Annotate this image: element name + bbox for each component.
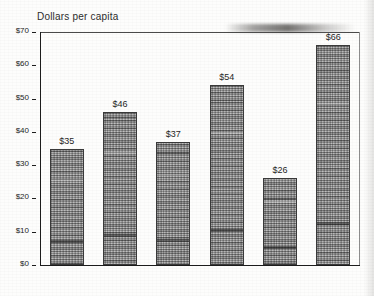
y-axis-line (40, 32, 41, 266)
bar (156, 142, 190, 265)
bar (210, 85, 244, 265)
y-axis-tick-label: $20 (16, 192, 29, 201)
y-axis-tick-mark (32, 32, 36, 33)
scanned-chart-page: Dollars per capita $0$10$20$30$40$50$60$… (0, 0, 374, 296)
y-axis-tick-mark (32, 198, 36, 199)
y-axis-tick-label: $60 (16, 59, 29, 68)
bar-group: $46Coos (103, 32, 137, 265)
bar (50, 149, 84, 266)
bar-value-label: $54 (204, 72, 250, 82)
chart-title: Dollars per capita (37, 11, 118, 22)
y-axis-tick-mark (32, 165, 36, 166)
scan-smudge-artifact (225, 24, 355, 32)
scan-edge-shadow (364, 0, 374, 296)
y-axis-tick-label: $30 (16, 159, 29, 168)
y-axis-tick-mark (32, 265, 36, 266)
y-axis-tick-mark (32, 132, 36, 133)
y-axis-tick-label: $0 (20, 259, 29, 268)
plot-frame-right (359, 32, 360, 266)
plot-area: $35Attala$46Coos$37Kossuth$54Latah$26Nic… (40, 32, 360, 265)
y-axis-tick-label: $70 (16, 26, 29, 35)
x-axis-line (40, 265, 360, 266)
bar (316, 45, 350, 265)
y-axis-tick-label: $50 (16, 93, 29, 102)
y-axis-tick-mark (32, 99, 36, 100)
y-axis-tick-mark (32, 232, 36, 233)
bar-group: $66Yavapai (316, 32, 350, 265)
bar-value-label: $66 (310, 32, 356, 42)
bar-group: $54Latah (210, 32, 244, 265)
y-axis-tick-mark (32, 65, 36, 66)
bar-value-label: $37 (150, 129, 196, 139)
bar-value-label: $26 (257, 165, 303, 175)
plot-frame-top (40, 32, 360, 33)
bar-value-label: $35 (44, 136, 90, 146)
bar-group: $35Attala (50, 32, 84, 265)
bar (263, 178, 297, 265)
bar-group: $26Nicholas (263, 32, 297, 265)
y-axis-tick-label: $40 (16, 126, 29, 135)
bar-value-label: $46 (97, 99, 143, 109)
bar-group: $37Kossuth (156, 32, 190, 265)
y-axis-tick-label: $10 (16, 226, 29, 235)
bar (103, 112, 137, 265)
